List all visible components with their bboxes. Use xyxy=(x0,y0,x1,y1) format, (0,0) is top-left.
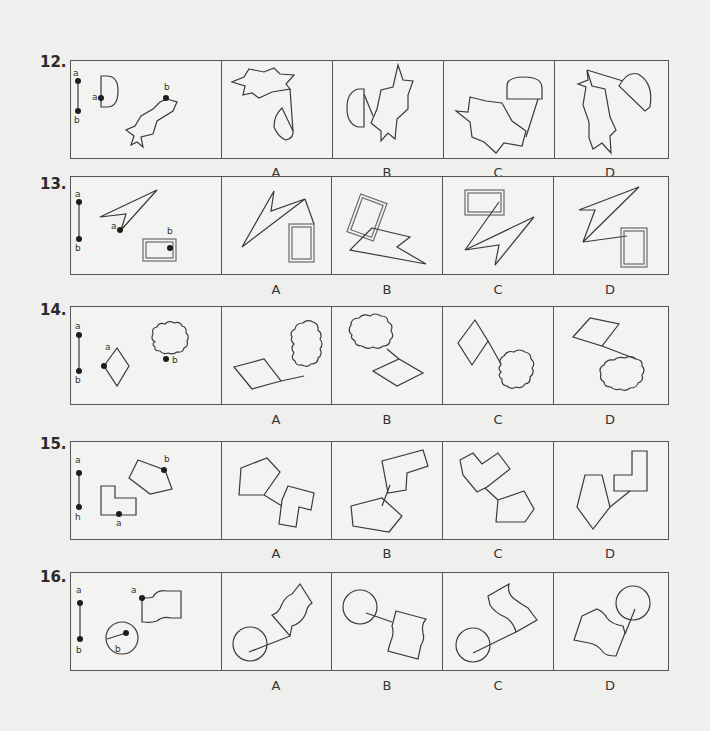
option-label-a: A xyxy=(266,282,286,297)
svg-text:b: b xyxy=(115,644,121,654)
option-c-figure xyxy=(443,442,554,539)
option-cell-c[interactable] xyxy=(444,61,555,158)
question-number: 16. xyxy=(40,568,67,586)
option-cell-d[interactable] xyxy=(554,573,668,670)
reference-figure: a b a b xyxy=(71,61,222,158)
point-label-a: a xyxy=(75,455,81,465)
question-number: 13. xyxy=(40,175,67,193)
option-c-figure xyxy=(443,177,554,274)
point-label-b: b xyxy=(75,243,81,253)
option-cell-c[interactable] xyxy=(443,573,554,670)
point-label-a: a xyxy=(76,585,82,595)
option-label-a: A xyxy=(266,546,286,561)
option-cell-a[interactable] xyxy=(222,442,332,539)
problem-box: a h a b xyxy=(70,441,669,540)
svg-text:a: a xyxy=(105,342,111,352)
option-cell-b[interactable] xyxy=(332,307,443,404)
option-label-b: B xyxy=(377,282,397,297)
reference-cell: a b a b xyxy=(71,307,222,404)
option-label-a: A xyxy=(266,412,286,427)
option-label-c: C xyxy=(488,412,508,427)
option-cell-a[interactable] xyxy=(222,573,332,670)
option-cell-b[interactable] xyxy=(332,177,443,274)
problem-box: a b a b xyxy=(70,176,669,275)
option-cell-c[interactable] xyxy=(443,177,554,274)
svg-text:b: b xyxy=(164,82,170,92)
option-cell-b[interactable] xyxy=(333,61,444,158)
svg-text:a: a xyxy=(131,585,137,595)
reference-figure: a b a b xyxy=(71,573,222,670)
point-label-a: a xyxy=(75,189,81,199)
option-cell-d[interactable] xyxy=(554,442,668,539)
option-a-figure xyxy=(222,573,332,670)
option-d-figure xyxy=(554,307,668,404)
point-label-a: a xyxy=(75,321,81,331)
option-cell-d[interactable] xyxy=(554,177,668,274)
option-c-figure xyxy=(443,307,554,404)
option-label-c: C xyxy=(488,282,508,297)
option-c-figure xyxy=(444,61,555,158)
option-cell-b[interactable] xyxy=(332,573,443,670)
option-d-figure xyxy=(554,573,668,670)
problem-box: a b a b xyxy=(70,306,669,405)
option-d-figure xyxy=(555,61,668,158)
option-label-b: B xyxy=(377,678,397,693)
option-cell-a[interactable] xyxy=(222,177,332,274)
option-b-figure xyxy=(333,61,444,158)
option-cell-c[interactable] xyxy=(443,307,554,404)
point-label-b: b xyxy=(75,375,81,385)
option-b-figure xyxy=(332,442,443,539)
option-cell-b[interactable] xyxy=(332,442,443,539)
question-number: 15. xyxy=(40,435,67,453)
option-cell-d[interactable] xyxy=(555,61,668,158)
point-label-b: b xyxy=(76,645,82,655)
option-a-figure xyxy=(222,307,332,404)
option-label-d: D xyxy=(600,678,620,693)
option-d-figure xyxy=(554,442,668,539)
option-d-figure xyxy=(554,177,668,274)
option-label-d: D xyxy=(600,282,620,297)
option-cell-c[interactable] xyxy=(443,442,554,539)
question-number: 12. xyxy=(40,53,67,71)
reference-figure: a b a b xyxy=(71,177,222,274)
option-a-figure xyxy=(222,442,332,539)
problem-box: a b a b xyxy=(70,60,669,159)
point-label-a: a xyxy=(73,68,79,78)
reference-cell: a b a b xyxy=(71,573,222,670)
point-label-h: h xyxy=(75,512,81,522)
svg-text:b: b xyxy=(172,355,178,365)
option-a-figure xyxy=(222,177,332,274)
svg-text:a: a xyxy=(116,518,122,528)
option-c-figure xyxy=(443,573,554,670)
option-label-a: A xyxy=(266,678,286,693)
svg-text:a: a xyxy=(111,221,117,231)
option-label-d: D xyxy=(600,412,620,427)
reference-cell: a b a b xyxy=(71,61,222,158)
svg-text:a: a xyxy=(92,92,98,102)
option-cell-a[interactable] xyxy=(222,307,332,404)
option-cell-a[interactable] xyxy=(222,61,333,158)
svg-text:b: b xyxy=(167,226,173,236)
reference-cell: a b a b xyxy=(71,177,222,274)
option-label-b: B xyxy=(377,412,397,427)
reference-cell: a h a b xyxy=(71,442,222,539)
option-label-d: D xyxy=(600,546,620,561)
option-b-figure xyxy=(332,573,443,670)
reference-figure: a b a b xyxy=(71,307,222,404)
option-label-b: B xyxy=(377,546,397,561)
option-a-figure xyxy=(222,61,333,158)
svg-text:b: b xyxy=(164,454,170,464)
point-label-b: b xyxy=(74,115,80,125)
option-label-c: C xyxy=(488,546,508,561)
option-b-figure xyxy=(332,177,443,274)
question-number: 14. xyxy=(40,301,67,319)
reference-figure: a h a b xyxy=(71,442,222,539)
option-label-c: C xyxy=(488,678,508,693)
option-cell-d[interactable] xyxy=(554,307,668,404)
problem-box: a b a b xyxy=(70,572,669,671)
option-b-figure xyxy=(332,307,443,404)
